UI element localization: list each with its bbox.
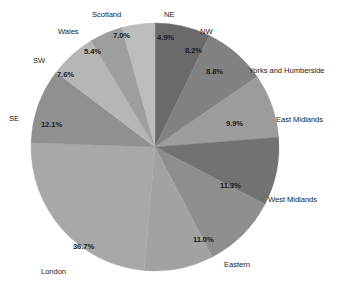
pie-value-label-se: 12.1% (41, 121, 62, 129)
pie-category-label-yorks-and-humberside: Yorks and Humberside (249, 67, 325, 75)
pie-value-label-yorks-and-humberside: 8.8% (206, 68, 223, 76)
pie-value-label-scotland: 7.0% (113, 32, 130, 40)
pie-chart-svg (0, 0, 339, 284)
pie-value-label-eastern: 11.0% (193, 236, 214, 244)
pie-category-label-london: London (41, 268, 66, 276)
pie-value-label-london: 36.7% (73, 243, 94, 251)
pie-slice-group (31, 23, 279, 271)
pie-category-label-west-midlands: West Midlands (268, 196, 317, 204)
pie-category-label-wales: Wales (58, 28, 79, 36)
pie-chart: 4.9%NE8.2%NW8.8%Yorks and Humberside9.9%… (0, 0, 339, 284)
pie-value-label-west-midlands: 11.3% (220, 182, 241, 190)
pie-category-label-eastern: Eastern (224, 261, 250, 269)
pie-category-label-ne: NE (164, 11, 174, 19)
pie-category-label-se: SE (9, 115, 19, 123)
pie-category-label-scotland: Scotland (92, 11, 121, 19)
pie-value-label-nw: 8.2% (185, 47, 202, 55)
pie-value-label-sw: 7.6% (57, 71, 74, 79)
pie-category-label-nw: NW (200, 28, 213, 36)
pie-category-label-east-midlands: East Midlands (276, 116, 323, 124)
pie-value-label-east-midlands: 9.9% (226, 120, 243, 128)
pie-value-label-wales: 5.4% (84, 48, 101, 56)
pie-category-label-sw: SW (33, 57, 45, 65)
pie-value-label-ne: 4.9% (157, 34, 174, 42)
pie-slice-london[interactable] (31, 143, 155, 271)
